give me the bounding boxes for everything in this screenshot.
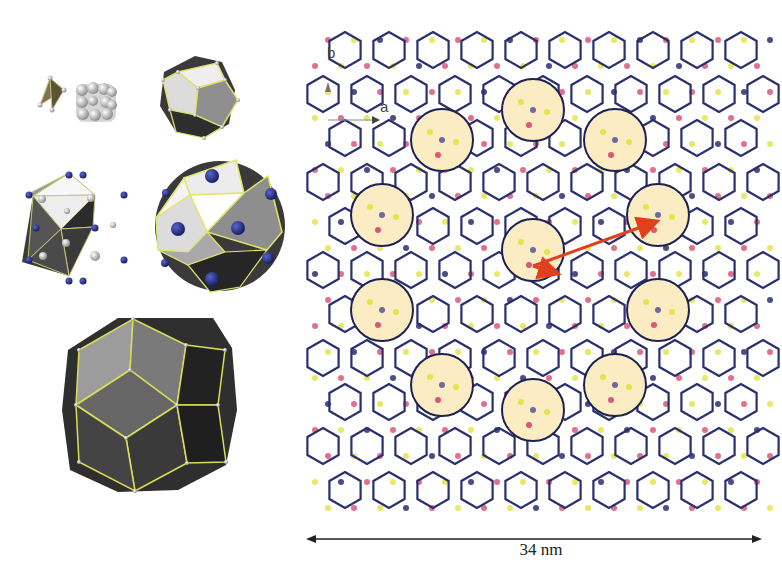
dodecahedron-cluster <box>160 56 240 140</box>
axis-label-b: b <box>327 44 335 61</box>
scale-bar-label: 34 nm <box>300 540 782 560</box>
cluster-polyhedra-panel <box>0 0 300 585</box>
axis-label-a: a <box>380 98 388 115</box>
large-polyhedron-cluster <box>62 317 237 493</box>
quasicrystal-tiling-panel: b a 34 nm <box>300 0 782 585</box>
icosahedron-cluster <box>22 172 128 285</box>
tetrahedron-cluster <box>38 76 67 113</box>
tiling-diagram <box>300 0 782 530</box>
space-filling-cluster <box>76 82 117 122</box>
capped-polyhedron-cluster <box>155 160 285 292</box>
